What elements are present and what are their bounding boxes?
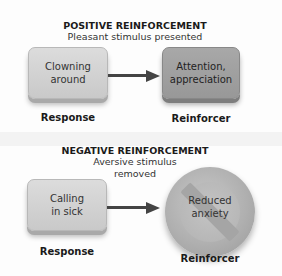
response-text-line: Calling bbox=[50, 192, 84, 205]
prohibition-sign-icon: Reduced anxiety bbox=[165, 167, 255, 257]
positive-reinforcer-box: Attention, appreciation bbox=[162, 47, 240, 99]
negative-title: NEGATIVE REINFORCEMENT bbox=[40, 145, 230, 156]
response-text-line: around bbox=[45, 73, 91, 86]
arrow-head-icon bbox=[146, 70, 160, 82]
positive-reinforcer-label: Reinforcer bbox=[162, 113, 240, 124]
positive-subtitle: Pleasant stimulus presented bbox=[40, 31, 230, 43]
reinforcer-text-line: Reduced bbox=[180, 194, 240, 207]
negative-arrow bbox=[107, 206, 148, 209]
positive-arrow bbox=[108, 74, 148, 77]
negative-reinforcer-text: Reduced anxiety bbox=[180, 194, 240, 220]
negative-subtitle-line1: Aversive stimulus bbox=[40, 156, 230, 168]
reinforcer-text-line: anxiety bbox=[180, 207, 240, 220]
reinforcer-text-line: Attention, bbox=[170, 60, 232, 73]
negative-response-box: Calling in sick bbox=[27, 179, 107, 231]
response-text-line: in sick bbox=[50, 205, 84, 218]
reinforcer-text-line: appreciation bbox=[170, 73, 232, 86]
arrow-head-icon bbox=[146, 202, 160, 214]
negative-reinforcer-label: Reinforcer bbox=[170, 253, 250, 264]
positive-response-box: Clowning around bbox=[28, 47, 108, 99]
positive-title: POSITIVE REINFORCEMENT bbox=[40, 20, 230, 31]
negative-response-label: Response bbox=[27, 246, 107, 257]
background-band bbox=[0, 132, 282, 146]
positive-response-label: Response bbox=[28, 112, 108, 123]
response-text-line: Clowning bbox=[45, 60, 91, 73]
